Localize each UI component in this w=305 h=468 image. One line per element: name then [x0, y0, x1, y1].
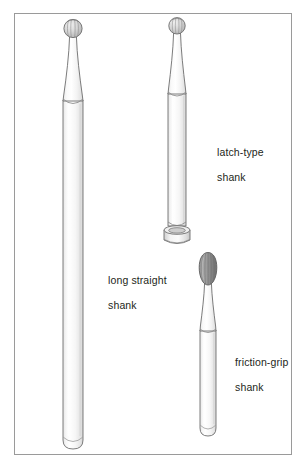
latch-type-shank-neck	[168, 33, 186, 94]
label-latch-type-shank: latch-type shank	[205, 133, 264, 196]
friction-grip-shank-bur	[199, 253, 217, 437]
label-friction-grip-shank: friction-grip shank	[223, 343, 288, 406]
label-friction-grip-line2: shank	[235, 381, 264, 393]
long-straight-bur-head	[64, 19, 82, 37]
label-long-straight-line1: long straight	[108, 274, 167, 286]
dental-bur-figure: latch-type shank long straight shank fri…	[0, 0, 305, 468]
long-straight-shank-bur	[63, 19, 83, 449]
label-latch-type-line1: latch-type	[217, 146, 264, 158]
latch-type-bur-head	[169, 18, 185, 34]
latch-type-shank-bur	[164, 18, 190, 244]
label-latch-type-line2: shank	[217, 171, 246, 183]
latch-type-shank-collar-bore	[169, 228, 186, 233]
label-long-straight-line2: shank	[108, 299, 137, 311]
label-long-straight-shank: long straight shank	[96, 261, 167, 324]
long-straight-shank-neck	[63, 36, 83, 101]
friction-grip-shank-neck	[200, 283, 216, 331]
label-friction-grip-line1: friction-grip	[235, 356, 288, 368]
